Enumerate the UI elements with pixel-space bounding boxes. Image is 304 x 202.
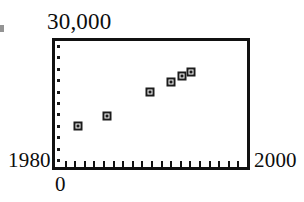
scatter-plot-figure: 30,000 1980 2000 0 bbox=[0, 0, 304, 202]
x-axis-max-label: 2000 bbox=[254, 150, 297, 171]
data-point-marker bbox=[177, 72, 186, 81]
data-point-marker bbox=[167, 77, 176, 86]
plot-frame bbox=[52, 38, 250, 170]
x-axis-tick bbox=[141, 161, 143, 167]
y-axis-tick bbox=[57, 113, 60, 116]
x-axis-min-label: 1980 bbox=[8, 150, 51, 171]
y-axis-tick bbox=[57, 125, 60, 128]
x-axis-tick bbox=[218, 161, 220, 167]
margin-ink-speck bbox=[0, 25, 4, 32]
x-axis-tick bbox=[209, 161, 211, 167]
y-axis-tick bbox=[57, 91, 60, 94]
y-axis-tick bbox=[57, 136, 60, 139]
y-axis-tick bbox=[57, 79, 60, 82]
x-axis-tick bbox=[199, 161, 201, 167]
y-axis-tick bbox=[57, 68, 60, 71]
y-axis-zero-label: 0 bbox=[55, 174, 66, 195]
y-axis-tick bbox=[57, 56, 60, 59]
y-axis-tick bbox=[57, 102, 60, 105]
x-axis-tick bbox=[228, 161, 230, 167]
x-axis-tick bbox=[170, 161, 172, 167]
x-axis-tick bbox=[65, 161, 67, 167]
x-axis-tick bbox=[74, 161, 76, 167]
plot-area bbox=[55, 41, 247, 167]
x-axis-tick bbox=[180, 161, 182, 167]
y-axis-tick bbox=[57, 159, 60, 162]
x-axis-tick bbox=[161, 161, 163, 167]
x-axis-tick bbox=[93, 161, 95, 167]
x-axis-tick bbox=[151, 161, 153, 167]
x-axis-tick bbox=[189, 161, 191, 167]
y-axis-max-label: 30,000 bbox=[47, 10, 111, 33]
x-axis-tick bbox=[84, 161, 86, 167]
x-axis-tick bbox=[237, 161, 239, 167]
y-axis-tick bbox=[57, 45, 60, 48]
data-point-marker bbox=[74, 121, 83, 130]
y-axis-tick bbox=[57, 148, 60, 151]
data-point-marker bbox=[146, 87, 155, 96]
x-axis-tick bbox=[113, 161, 115, 167]
x-axis-tick bbox=[103, 161, 105, 167]
x-axis-tick bbox=[122, 161, 124, 167]
data-point-marker bbox=[102, 112, 111, 121]
data-point-marker bbox=[187, 67, 196, 76]
x-axis-tick bbox=[132, 161, 134, 167]
